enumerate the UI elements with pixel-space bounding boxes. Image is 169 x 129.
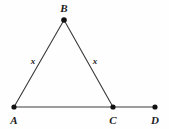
point-d-dot (152, 104, 157, 109)
point-c-dot (110, 104, 115, 109)
segment-bc (64, 20, 113, 107)
point-a-dot (11, 104, 16, 109)
figure-canvas (0, 0, 169, 129)
point-b-dot (61, 17, 67, 23)
segment-ab (14, 20, 64, 107)
geometry-figure: A B C D x x (0, 0, 169, 129)
